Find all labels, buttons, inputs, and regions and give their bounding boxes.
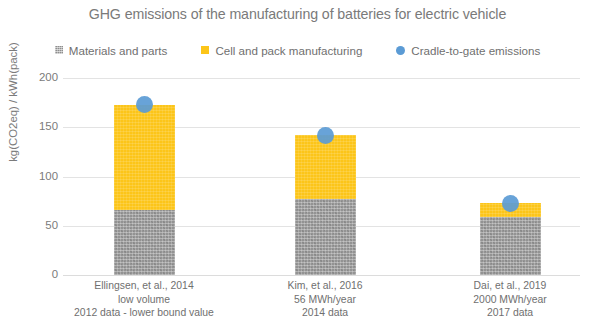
legend-label: Cell and pack manufacturing xyxy=(215,44,362,57)
bar-segment-materials[interactable] xyxy=(114,210,175,275)
cradle-to-gate-marker[interactable] xyxy=(136,96,153,113)
legend-item-cell-and-pack-manufacturing[interactable]: Cell and pack manufacturing xyxy=(201,44,362,57)
legend-label: Materials and parts xyxy=(69,44,168,57)
x-axis-label-line: Ellingsen, et al., 2014 xyxy=(49,279,239,293)
x-axis-label: Kim, et al., 201656 MWh/year2014 data xyxy=(230,279,420,320)
x-axis-label-line: low volume xyxy=(49,293,239,307)
bar-stack[interactable] xyxy=(480,78,541,275)
y-tick-label: 200 xyxy=(22,72,58,83)
bar-stack[interactable] xyxy=(295,78,356,275)
x-axis-label-line: 2017 data xyxy=(415,306,595,320)
x-axis-label-line: Dai, et al., 2019 xyxy=(415,279,595,293)
legend-label: Cradle-to-gate emissions xyxy=(411,44,540,57)
chart-legend: Materials and parts Cell and pack manufa… xyxy=(0,41,595,59)
y-tick-label: 50 xyxy=(22,220,58,231)
y-axis-ticks: 050100150200 xyxy=(18,78,58,275)
bar-segment-materials[interactable] xyxy=(295,199,356,275)
circle-icon xyxy=(396,46,405,55)
gridline xyxy=(63,275,580,276)
x-axis-label-line: 2014 data xyxy=(230,306,420,320)
y-tick-label: 100 xyxy=(22,171,58,182)
y-tick-label: 150 xyxy=(22,122,58,133)
x-axis-category-labels: Ellingsen, et al., 2014low volume2012 da… xyxy=(63,279,580,328)
bar-segment-materials[interactable] xyxy=(480,217,541,275)
legend-item-materials-and-parts[interactable]: Materials and parts xyxy=(55,44,168,57)
cradle-to-gate-marker[interactable] xyxy=(502,195,519,212)
x-axis-label-line: 2000 MWh/year xyxy=(415,293,595,307)
bar-segment-cell-and-pack[interactable] xyxy=(295,135,356,199)
bar-segment-cell-and-pack[interactable] xyxy=(114,105,175,210)
x-axis-label-line: 56 MWh/year xyxy=(230,293,420,307)
legend-item-cradle-to-gate-emissions[interactable]: Cradle-to-gate emissions xyxy=(396,44,540,57)
square-icon xyxy=(55,46,63,54)
chart-container: GHG emissions of the manufacturing of ba… xyxy=(0,0,595,328)
x-axis-label: Dai, et al., 20192000 MWh/year2017 data xyxy=(415,279,595,320)
x-axis-label-line: Kim, et al., 2016 xyxy=(230,279,420,293)
chart-title: GHG emissions of the manufacturing of ba… xyxy=(0,6,595,22)
square-icon xyxy=(201,46,209,54)
x-axis-label: Ellingsen, et al., 2014low volume2012 da… xyxy=(49,279,239,320)
plot-area xyxy=(63,78,580,275)
cradle-to-gate-marker[interactable] xyxy=(317,127,334,144)
x-axis-label-line: 2012 data - lower bound value xyxy=(49,306,239,320)
